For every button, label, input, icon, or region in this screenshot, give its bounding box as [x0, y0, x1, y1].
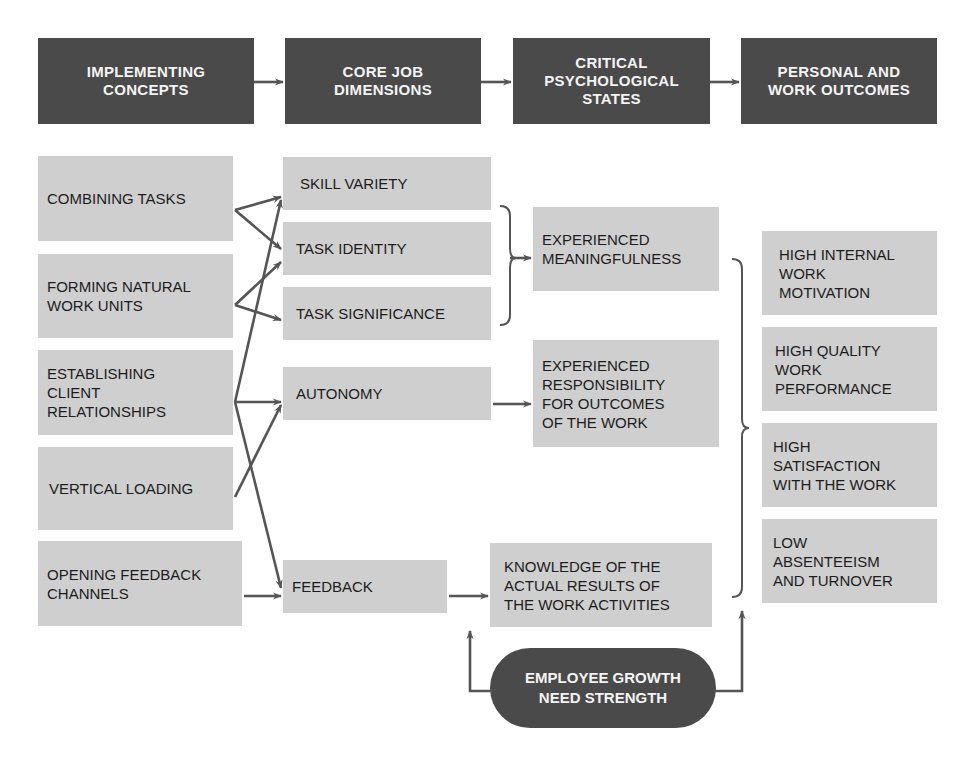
header-label: CORE JOB DIMENSIONS — [334, 63, 432, 99]
header-core-job-dimensions: CORE JOB DIMENSIONS — [285, 38, 481, 124]
outcome-quality-performance: HIGH QUALITY WORK PERFORMANCE — [762, 327, 937, 411]
header-label: IMPLEMENTING CONCEPTS — [87, 63, 206, 99]
state-knowledge-of-results: KNOWLEDGE OF THE ACTUAL RESULTS OF THE W… — [490, 543, 712, 627]
concept-forming-natural-work-units: FORMING NATURAL WORK UNITS — [38, 254, 233, 338]
concept-opening-feedback-channels: OPENING FEEDBACK CHANNELS — [38, 541, 242, 626]
moderator-growth-need-strength: EMPLOYEE GROWTH NEED STRENGTH — [490, 648, 716, 728]
outcome-satisfaction: HIGH SATISFACTION WITH THE WORK — [762, 423, 937, 507]
state-experienced-responsibility: EXPERIENCED RESPONSIBILITY FOR OUTCOMES … — [533, 340, 719, 447]
header-implementing-concepts: IMPLEMENTING CONCEPTS — [38, 38, 254, 124]
dimension-autonomy: AUTONOMY — [283, 367, 491, 420]
dimension-task-identity: TASK IDENTITY — [283, 222, 491, 275]
header-label: CRITICAL PSYCHOLOGICAL STATES — [544, 54, 679, 108]
state-experienced-meaningfulness: EXPERIENCED MEANINGFULNESS — [533, 207, 719, 291]
dimension-feedback: FEEDBACK — [283, 560, 447, 613]
outcome-internal-motivation: HIGH INTERNAL WORK MOTIVATION — [762, 231, 937, 315]
concept-combining-tasks: COMBINING TASKS — [38, 156, 233, 241]
dimension-task-significance: TASK SIGNIFICANCE — [283, 287, 491, 340]
dimension-skill-variety: SKILL VARIETY — [283, 157, 491, 210]
moderator-label: EMPLOYEE GROWTH NEED STRENGTH — [525, 668, 681, 708]
concept-vertical-loading: VERTICAL LOADING — [38, 447, 233, 530]
header-critical-psychological-states: CRITICAL PSYCHOLOGICAL STATES — [513, 38, 710, 124]
outcome-low-absenteeism: LOW ABSENTEEISM AND TURNOVER — [762, 519, 937, 603]
header-personal-work-outcomes: PERSONAL AND WORK OUTCOMES — [741, 38, 937, 124]
header-label: PERSONAL AND WORK OUTCOMES — [768, 63, 910, 99]
concept-establishing-client-relationships: ESTABLISHING CLIENT RELATIONSHIPS — [38, 350, 233, 435]
